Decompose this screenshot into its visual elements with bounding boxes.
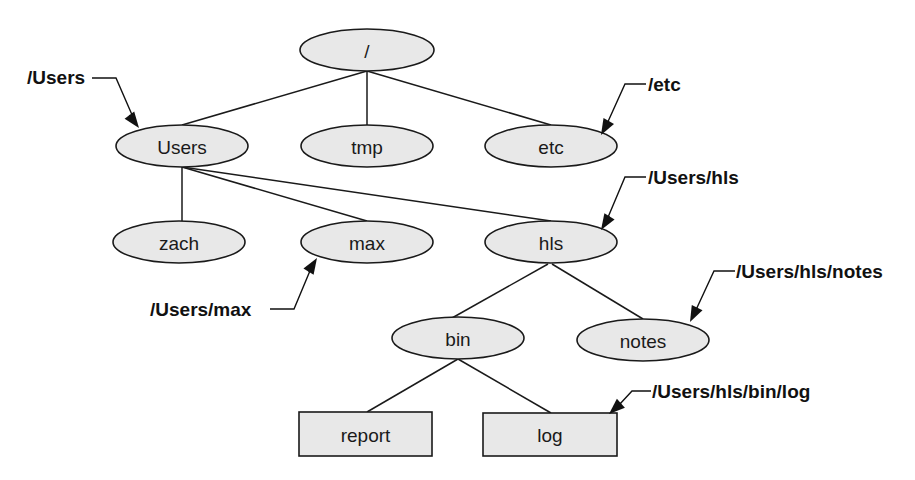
node-label: bin <box>445 329 470 350</box>
directory-node-users: Users <box>116 125 248 167</box>
edge-hls-to-bin <box>452 264 548 318</box>
arrowhead-icon <box>690 305 703 322</box>
callout-leader-line <box>270 266 312 309</box>
callout-path-label: /Users <box>27 67 85 88</box>
node-label: notes <box>620 331 666 352</box>
node-label: tmp <box>351 137 383 158</box>
callout-leader-line <box>695 271 735 312</box>
callout-log: /Users/hls/bin/log <box>609 381 810 415</box>
file-node-report: report <box>299 412 432 456</box>
directory-node-root: / <box>300 29 434 71</box>
nodes-layer: /Userstmpetczachmaxhlsbinnotesreportlog <box>113 29 709 456</box>
arrowhead-icon <box>601 118 614 135</box>
edge-hls-to-notes <box>552 264 643 319</box>
callout-max: /Users/max <box>150 258 317 320</box>
file-system-tree-diagram: /Userstmpetczachmaxhlsbinnotesreportlog … <box>0 0 915 480</box>
callout-etc: /etc <box>601 74 681 136</box>
callout-leader-line <box>606 177 646 222</box>
callout-users: /Users <box>27 67 139 129</box>
arrowhead-icon <box>125 112 139 128</box>
callout-path-label: /Users/max <box>150 299 252 320</box>
callout-path-label: /etc <box>648 74 681 95</box>
callout-leader-line <box>606 84 646 126</box>
directory-node-max: max <box>301 221 433 263</box>
node-label: / <box>364 41 370 62</box>
edge-root-to-users <box>182 71 367 125</box>
callout-leader-line <box>619 391 651 405</box>
node-label: log <box>537 425 562 446</box>
edge-bin-to-report <box>367 359 458 412</box>
callout-hls: /Users/hls <box>601 167 739 231</box>
directory-node-notes: notes <box>577 319 709 361</box>
edge-users-to-hls <box>182 167 551 221</box>
directory-node-zach: zach <box>113 221 245 263</box>
edge-users-to-max <box>182 167 367 221</box>
file-node-log: log <box>483 413 617 456</box>
edge-root-to-etc <box>367 71 551 125</box>
directory-node-bin: bin <box>392 317 524 359</box>
arrowhead-icon <box>601 213 615 230</box>
callout-path-label: /Users/hls/notes <box>736 261 883 282</box>
callout-notes: /Users/hls/notes <box>690 261 883 323</box>
callout-path-label: /Users/hls/bin/log <box>652 381 810 402</box>
edge-bin-to-log <box>458 359 551 413</box>
node-label: hls <box>539 233 563 254</box>
directory-node-tmp: tmp <box>301 125 433 167</box>
directory-node-etc: etc <box>485 125 617 167</box>
arrowhead-icon <box>303 258 317 275</box>
node-label: etc <box>538 137 563 158</box>
diagram-canvas: /Userstmpetczachmaxhlsbinnotesreportlog … <box>0 0 915 480</box>
callout-path-label: /Users/hls <box>648 167 739 188</box>
node-label: Users <box>157 137 207 158</box>
node-label: max <box>349 233 385 254</box>
node-label: report <box>341 425 391 446</box>
directory-node-hls: hls <box>485 221 617 263</box>
node-label: zach <box>159 233 199 254</box>
